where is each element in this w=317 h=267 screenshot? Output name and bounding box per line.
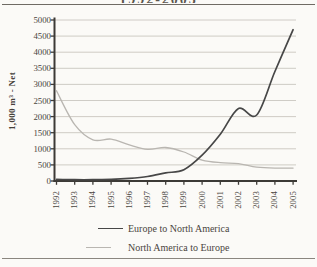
x-tick-label: 2000 (197, 187, 207, 213)
legend-line-sample-gray (86, 247, 111, 248)
x-tick-label: 2004 (269, 187, 279, 213)
x-tick-label: 2005 (288, 187, 298, 213)
y-tick-label: 500 (21, 160, 51, 170)
x-tick-label: 1998 (160, 187, 170, 213)
legend-item-north-america-to-europe: North America to Europe (0, 241, 317, 254)
y-tick-label: 3000 (21, 79, 51, 89)
x-tick-label: 2002 (233, 187, 243, 213)
x-tick-label: 1992 (51, 187, 61, 213)
x-tick-label: 1996 (124, 187, 134, 213)
legend-item-europe-to-north-america: Europe to North America (0, 222, 317, 235)
legend-label-north-america-to-europe: North America to Europe (128, 241, 229, 254)
legend-label-europe-to-north-america: Europe to North America (128, 222, 229, 235)
x-tick-label: 2001 (215, 187, 225, 213)
x-tick-label: 2003 (251, 187, 261, 213)
y-tick-label: 4000 (21, 47, 51, 57)
y-tick-label: 2500 (21, 96, 51, 106)
x-tick-label: 1997 (142, 187, 152, 213)
y-tick-label: 2000 (21, 112, 51, 122)
x-tick-label: 1994 (87, 187, 97, 213)
y-tick-label: 1000 (21, 144, 51, 154)
x-tick-label: 1995 (106, 187, 116, 213)
y-tick-label: 0 (21, 176, 51, 186)
y-tick-label: 5000 (21, 15, 51, 25)
bottom-rule (2, 258, 315, 259)
y-tick-label: 1500 (21, 128, 51, 138)
y-tick-label: 4500 (21, 31, 51, 41)
figure-container: 1992-2005 1,000 m³ - Net 050010001500200… (0, 0, 317, 267)
legend-line-sample-dark (98, 228, 123, 229)
y-axis-title: 1,000 m³ - Net (7, 57, 19, 145)
x-tick-label: 1993 (69, 187, 79, 213)
series-line-1 (57, 91, 294, 168)
x-tick-label: 1999 (178, 187, 188, 213)
y-tick-label: 3500 (21, 63, 51, 73)
